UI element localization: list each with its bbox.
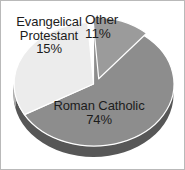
slice-label-evangelical-protestant: Evangelical Protestant 15% bbox=[7, 15, 91, 56]
catholic-label-line1: Roman Catholic bbox=[53, 98, 144, 113]
slice-label-roman-catholic: Roman Catholic 74% bbox=[43, 99, 155, 126]
other-label-percent: 11% bbox=[85, 27, 135, 41]
catholic-label-percent: 74% bbox=[43, 113, 155, 127]
evangelical-label-percent: 15% bbox=[7, 42, 91, 56]
other-label-line1: Other bbox=[85, 12, 118, 27]
slice-label-other: Other 11% bbox=[85, 13, 135, 41]
pie-chart-figure: Evangelical Protestant 15% Other 11% Rom… bbox=[0, 0, 185, 170]
